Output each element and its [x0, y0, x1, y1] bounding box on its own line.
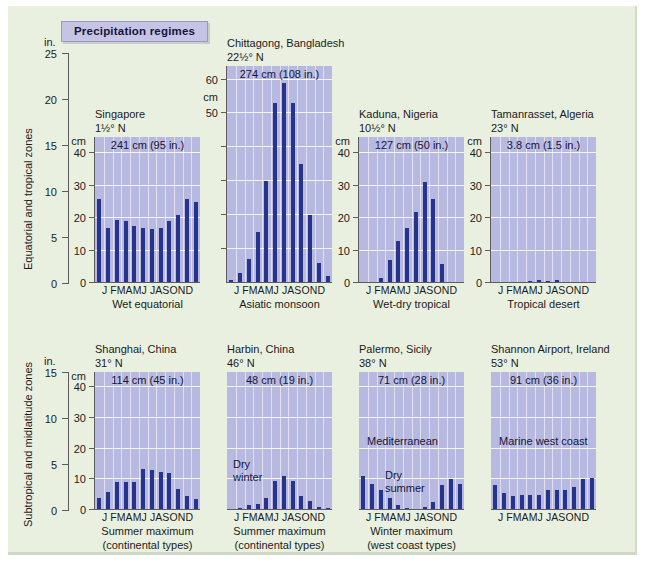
bar-m-2 — [511, 496, 515, 510]
cm-axis: 010203040cm — [55, 372, 95, 510]
panel-total-label: 114 cm (45 in.) — [95, 374, 200, 386]
caption-line: Wet equatorial — [73, 298, 222, 312]
cm-axis-unit: cm — [194, 91, 218, 103]
bar-a-3 — [256, 232, 260, 283]
bar-d-11 — [194, 202, 198, 283]
station-name: Singapore — [95, 108, 145, 122]
cm-axis-tick — [89, 250, 95, 251]
vertical-gridline — [429, 137, 430, 283]
bar-o-9 — [308, 215, 312, 283]
vertical-gridline — [156, 372, 157, 510]
cm-axis-unit: cm — [62, 370, 86, 382]
axis-tick-label: 5 — [31, 232, 57, 244]
vertical-gridline — [517, 137, 518, 283]
cm-axis-tick — [353, 217, 359, 218]
bar-s-8 — [563, 490, 567, 510]
horizontal-gridline — [227, 248, 332, 249]
cm-axis-tick — [89, 417, 95, 418]
vertical-gridline — [183, 137, 184, 283]
horizontal-gridline — [227, 417, 332, 418]
bar-a-7 — [291, 481, 295, 510]
panel-total-label: 48 cm (19 in.) — [227, 374, 332, 386]
cm-axis-tick — [89, 217, 95, 218]
cm-axis-tick-label: 0 — [62, 277, 86, 289]
bar-j-6 — [414, 212, 418, 283]
vertical-gridline — [191, 372, 192, 510]
regime-caption: Tropical desert — [469, 298, 618, 312]
vertical-gridline — [306, 66, 307, 283]
vertical-gridline — [236, 66, 237, 283]
cm-axis-tick-label: 10 — [458, 245, 482, 257]
bar-a-7 — [555, 490, 559, 510]
horizontal-gridline — [227, 386, 332, 387]
plot-baseline — [227, 282, 332, 283]
panel-header: Shanghai, China31° N — [95, 343, 176, 372]
panel-total-label: 241 cm (95 in.) — [95, 139, 200, 151]
vertical-gridline — [579, 137, 580, 283]
axis-tick-label: 10 — [31, 186, 57, 198]
caption-line: Summer maximum — [73, 525, 222, 539]
horizontal-gridline — [95, 152, 200, 153]
vertical-gridline — [368, 137, 369, 283]
horizontal-gridline — [95, 386, 200, 387]
cm-axis-tick — [221, 248, 227, 249]
cm-axis-spine — [94, 137, 95, 283]
vertical-gridline — [139, 137, 140, 283]
vertical-gridline — [455, 372, 456, 510]
caption-line: Tropical desert — [469, 298, 618, 312]
vertical-gridline — [104, 372, 105, 510]
cm-axis-tick-label: 30 — [326, 180, 350, 192]
vertical-gridline — [148, 137, 149, 283]
vertical-gridline — [447, 372, 448, 510]
axis-tick-label: 25 — [31, 48, 57, 60]
bar-s-8 — [167, 221, 171, 283]
axis-tick: 25 — [62, 53, 69, 54]
vertical-gridline — [315, 372, 316, 510]
dry-season-annotation: Drywinter — [233, 458, 262, 484]
vertical-gridline — [174, 372, 175, 510]
vertical-gridline — [148, 372, 149, 510]
vertical-gridline — [165, 137, 166, 283]
panel-header: Singapore1½° N — [95, 108, 145, 137]
cm-axis-tick-label: 0 — [62, 504, 86, 516]
caption-line: Asiatic monsoon — [205, 298, 354, 312]
vertical-gridline — [113, 137, 114, 283]
vertical-gridline — [323, 372, 324, 510]
station-latitude: 38° N — [359, 357, 432, 371]
cm-axis-tick-label: 40 — [326, 147, 350, 159]
climate-panel-tamanrasset: Tamanrasset, Algeria23° N3.8 cm (1.5 in.… — [491, 137, 596, 283]
climate-panel-chittagong: Chittagong, Bangladesh22½° N274 cm (108 … — [227, 66, 332, 283]
caption-line: (continental types) — [73, 539, 222, 553]
cm-axis: 010203040cm — [319, 137, 359, 283]
station-latitude: 31° N — [95, 357, 176, 371]
month-axis-labels: J FMAMJ JASOND — [95, 284, 200, 296]
regime-inline-label: Marine west coast — [499, 435, 588, 448]
cm-axis-tick — [89, 152, 95, 153]
cm-axis-spine — [490, 137, 491, 283]
regime-caption: Asiatic monsoon — [205, 298, 354, 312]
plot-baseline — [359, 282, 464, 283]
cm-axis-tick-label: 30 — [62, 412, 86, 424]
station-name: Harbin, China — [227, 343, 294, 357]
bar-j-0 — [493, 485, 497, 510]
horizontal-gridline — [491, 217, 596, 218]
vertical-gridline — [165, 372, 166, 510]
panel-header: Shannon Airport, Ireland53° N — [491, 343, 610, 372]
vertical-gridline — [297, 372, 298, 510]
month-axis-labels: J FMAMJ JASOND — [227, 284, 332, 296]
cm-axis-unit: cm — [326, 135, 350, 147]
plot-baseline — [491, 509, 596, 510]
station-latitude: 53° N — [491, 357, 610, 371]
station-name: Chittagong, Bangladesh — [227, 37, 344, 51]
vertical-gridline — [500, 137, 501, 283]
vertical-gridline — [245, 66, 246, 283]
bar-f-1 — [106, 492, 110, 510]
cm-axis-spine — [226, 66, 227, 283]
cm-axis-tick-label: 30 — [458, 180, 482, 192]
cm-axis-tick — [353, 250, 359, 251]
bar-a-7 — [423, 182, 427, 283]
cm-axis-spine — [358, 137, 359, 283]
cm-axis-tick — [221, 180, 227, 181]
inch-axis-unit-bottom: in. — [44, 355, 56, 367]
cm-axis-tick-label: 10 — [326, 245, 350, 257]
